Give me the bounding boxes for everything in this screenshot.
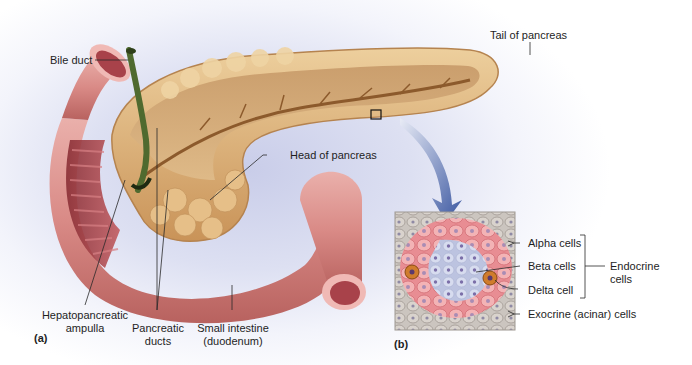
- islet-micrograph: [395, 212, 515, 330]
- label-line: cells: [610, 273, 660, 286]
- panel-letter-a: (a): [34, 332, 47, 344]
- label-bile-duct: Bile duct: [50, 54, 92, 67]
- label-line: Hepatopancreatic: [40, 309, 130, 322]
- label-beta-cells: Beta cells: [528, 260, 576, 273]
- label-line: Endocrine: [610, 260, 660, 273]
- label-delta-cell: Delta cell: [528, 284, 573, 297]
- label-line: ampulla: [40, 322, 130, 335]
- label-endocrine-cells: Endocrine cells: [610, 260, 660, 286]
- label-pancreatic-ducts: Pancreatic ducts: [128, 322, 188, 348]
- panel-letter-b: (b): [394, 338, 408, 350]
- label-line: ducts: [128, 335, 188, 348]
- pancreas-anatomy-figure: Bile duct Tail of pancreas Head of pancr…: [0, 0, 692, 365]
- label-hepatopancreatic-ampulla: Hepatopancreatic ampulla: [40, 309, 130, 335]
- label-tail-of-pancreas: Tail of pancreas: [490, 29, 567, 42]
- label-alpha-cells: Alpha cells: [528, 237, 581, 250]
- label-small-intestine: Small intestine (duodenum): [192, 322, 274, 348]
- magnify-arrow: [400, 118, 462, 222]
- label-exocrine-cells: Exocrine (acinar) cells: [528, 308, 636, 321]
- label-line: Pancreatic: [128, 322, 188, 335]
- label-line: Small intestine: [192, 322, 274, 335]
- label-head-of-pancreas: Head of pancreas: [290, 149, 377, 162]
- label-line: (duodenum): [192, 335, 274, 348]
